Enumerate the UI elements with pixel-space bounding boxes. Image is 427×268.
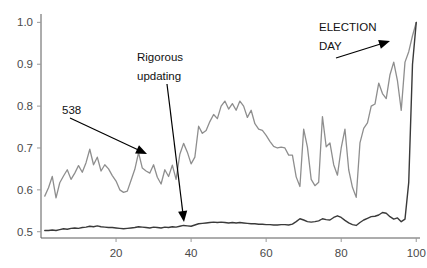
line-chart: 0.50.60.70.80.91.0 20406080100 538 Rigor… [0,0,427,268]
annotation-election-day: ELECTION DAY [319,21,390,58]
y-tick-label: 0.8 [17,100,33,112]
annotation-label-day: DAY [319,40,342,52]
annotation-538: 538 [62,104,147,154]
annotation-label-538: 538 [62,104,81,116]
x-tick-marks [116,238,416,242]
x-tick-label: 80 [335,247,348,259]
annotation-arrow-election-line [336,43,382,58]
y-tick-marks [37,22,41,231]
chart-container: 0.50.60.70.80.91.0 20406080100 538 Rigor… [0,0,427,268]
y-axis-group: 0.50.60.70.80.91.0 [17,14,41,238]
annotation-arrow-election-head [378,40,390,49]
annotation-label-rigorous: Rigorous [137,51,183,63]
y-tick-label: 0.6 [17,184,33,196]
x-tick-labels: 20406080100 [110,247,426,259]
annotation-rigorous-updating: Rigorous updating [137,51,187,222]
y-tick-labels: 0.50.60.70.80.91.0 [17,16,33,237]
y-tick-label: 0.7 [17,142,33,154]
x-axis-group: 20406080100 [41,238,426,259]
y-tick-label: 0.9 [17,58,33,70]
annotation-arrow-rigorous-head [178,211,187,222]
x-tick-label: 20 [110,247,123,259]
series-group [45,22,417,230]
x-tick-label: 40 [185,247,198,259]
y-tick-label: 1.0 [17,16,33,28]
annotation-label-updating: updating [137,70,181,82]
series-line-538 [45,22,417,197]
y-tick-label: 0.5 [17,226,33,238]
x-tick-label: 100 [407,247,426,259]
annotation-arrow-rigorous-line [167,84,183,214]
annotation-label-election: ELECTION [319,21,377,33]
annotation-arrow-538-line [70,118,140,151]
x-tick-label: 60 [260,247,273,259]
series-line-other-forecast [45,22,417,230]
